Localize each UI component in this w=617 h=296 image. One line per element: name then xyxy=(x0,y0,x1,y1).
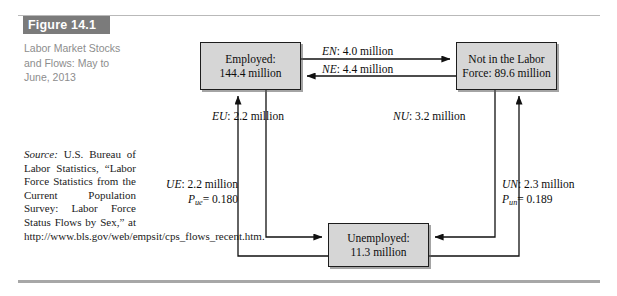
flow-prob-var-un: P xyxy=(502,193,509,205)
flow-code-ue: UE xyxy=(166,178,181,190)
node-nilf-line1: Not in the Labor xyxy=(468,52,544,66)
flow-prob-var-ue: P xyxy=(188,193,195,205)
node-not-in-labor-force: Not in the Labor Force: 89.6 million xyxy=(456,42,557,90)
node-nilf-line2: Force: 89.6 million xyxy=(462,66,550,80)
flow-prob-value-un: = 0.189 xyxy=(517,193,552,205)
flow-label-ne: NE: 4.4 million xyxy=(322,62,393,77)
flow-prob-value-ue: = 0.180 xyxy=(203,193,238,205)
node-employed-line2: 144.4 million xyxy=(220,66,282,80)
node-unemployed: Unemployed: 11.3 million xyxy=(328,223,429,267)
flow-label-ue: UE: 2.2 million Pue= 0.180 xyxy=(160,177,238,210)
flow-value-eu: 2.2 million xyxy=(233,110,283,122)
flow-code-ne: NE xyxy=(322,63,337,75)
flow-label-ue-line1: UE: 2.2 million xyxy=(160,177,238,192)
node-unemployed-line2: 11.3 million xyxy=(351,245,407,259)
figure-source-note: Source: U.S. Bureau of Labor Statistics,… xyxy=(24,148,136,243)
flow-prob-ue-line: Pue= 0.180 xyxy=(160,192,238,210)
labor-market-flow-diagram: Employed: 144.4 million Not in the Labor… xyxy=(150,25,600,275)
bottom-rule xyxy=(18,280,600,283)
node-unemployed-line1: Unemployed: xyxy=(347,231,410,245)
node-employed-line1: Employed: xyxy=(225,52,275,66)
flow-label-eu: EU: 2.2 million xyxy=(212,109,284,124)
flow-value-un: 2.3 million xyxy=(524,178,574,190)
flow-code-nu: NU xyxy=(393,110,409,122)
flow-value-en: 4.0 million xyxy=(343,45,393,57)
figure-number-tag: Figure 14.1 xyxy=(23,16,110,34)
flow-label-un: UN: 2.3 million Pun= 0.189 xyxy=(502,177,588,210)
figure-frame: Figure 14.1 Labor Market Stocks and Flow… xyxy=(0,0,617,296)
flow-prob-un-line: Pun= 0.189 xyxy=(502,192,588,210)
flow-code-en: EN xyxy=(322,45,337,57)
flow-code-eu: EU xyxy=(212,110,227,122)
flow-prob-sub-ue: ue xyxy=(195,197,203,206)
flow-label-un-line1: UN: 2.3 million xyxy=(502,177,588,192)
flow-label-en: EN: 4.0 million xyxy=(322,44,393,59)
flow-value-ne: 4.4 million xyxy=(343,63,393,75)
flow-label-nu: NU: 3.2 million xyxy=(393,109,466,124)
figure-caption: Labor Market Stocks and Flows: May to Ju… xyxy=(24,41,132,85)
node-employed: Employed: 144.4 million xyxy=(200,42,301,90)
flow-code-un: UN xyxy=(502,178,518,190)
flow-value-ue: 2.2 million xyxy=(188,178,238,190)
flow-value-nu: 3.2 million xyxy=(415,110,465,122)
source-label: Source: xyxy=(24,148,58,160)
flow-prob-sub-un: un xyxy=(509,197,517,206)
